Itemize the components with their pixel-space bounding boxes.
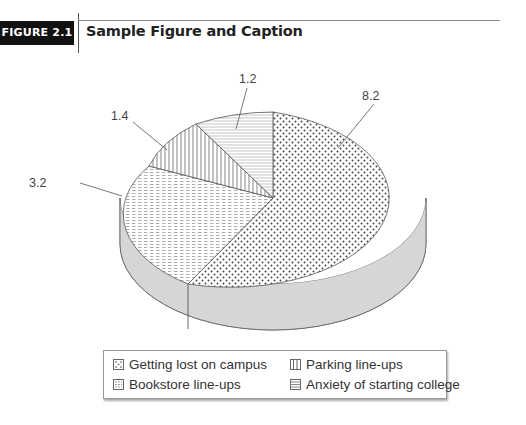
data-label-parking: 1.4 (111, 109, 128, 123)
dots-pattern-swatch-icon (113, 359, 124, 370)
chart-legend: Getting lost on campus Parking line-ups … (103, 350, 447, 399)
legend-label: Bookstore line-ups (129, 377, 241, 392)
data-label-anxiety: 1.2 (239, 72, 256, 86)
legend-label: Getting lost on campus (129, 357, 267, 372)
pie-top-face (123, 112, 389, 287)
legend-label: Anxiety of starting college (306, 377, 460, 392)
legend-item-bookstore: Bookstore line-ups (113, 377, 241, 392)
data-label-bookstore: 3.2 (29, 176, 46, 190)
legend-item-getting-lost: Getting lost on campus (113, 357, 267, 372)
vertical-lines-swatch-icon (290, 359, 301, 370)
legend-item-anxiety: Anxiety of starting college (290, 377, 460, 392)
legend-label: Parking line-ups (306, 357, 403, 372)
dashed-lines-swatch-icon (113, 379, 124, 390)
horizontal-lines-swatch-icon (290, 379, 301, 390)
data-label-getting-lost: 8.2 (362, 89, 379, 103)
legend-item-parking: Parking line-ups (290, 357, 403, 372)
